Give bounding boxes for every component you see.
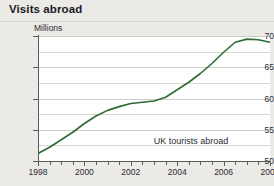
x-tick-mark xyxy=(177,162,178,166)
x-tick-mark xyxy=(131,162,132,166)
x-tick-mark xyxy=(247,162,248,165)
x-tick-mark xyxy=(142,162,143,165)
x-tick-label: 2004 xyxy=(168,168,187,177)
x-tick-mark xyxy=(235,162,236,165)
x-tick-mark xyxy=(270,162,271,166)
title-divider xyxy=(0,21,274,22)
x-tick-mark xyxy=(189,162,190,165)
chart-figure: Visits abroad Millions 5055606570 199820… xyxy=(0,0,274,186)
x-tick-mark xyxy=(38,162,39,166)
x-tick-mark xyxy=(84,162,85,166)
x-tick-mark xyxy=(200,162,201,165)
x-tick-mark xyxy=(154,162,155,165)
x-tick-mark xyxy=(166,162,167,165)
axis-unit-label: Millions xyxy=(34,23,62,33)
x-tick-mark xyxy=(224,162,225,166)
x-tick-label: 2002 xyxy=(121,168,140,177)
x-tick-mark xyxy=(119,162,120,165)
x-tick-mark xyxy=(258,162,259,165)
page-title: Visits abroad xyxy=(9,3,82,15)
x-tick-mark xyxy=(96,162,97,165)
x-tick-label: 2008 xyxy=(261,168,274,177)
x-tick-label: 2000 xyxy=(75,168,94,177)
x-tick-mark xyxy=(73,162,74,165)
x-tick-label: 1998 xyxy=(29,168,48,177)
x-tick-mark xyxy=(108,162,109,165)
x-tick-mark xyxy=(50,162,51,165)
x-tick-label: 2006 xyxy=(214,168,233,177)
x-tick-mark xyxy=(212,162,213,165)
x-tick-mark xyxy=(61,162,62,165)
series-annotation-label: UK tourists abroad xyxy=(154,136,229,146)
